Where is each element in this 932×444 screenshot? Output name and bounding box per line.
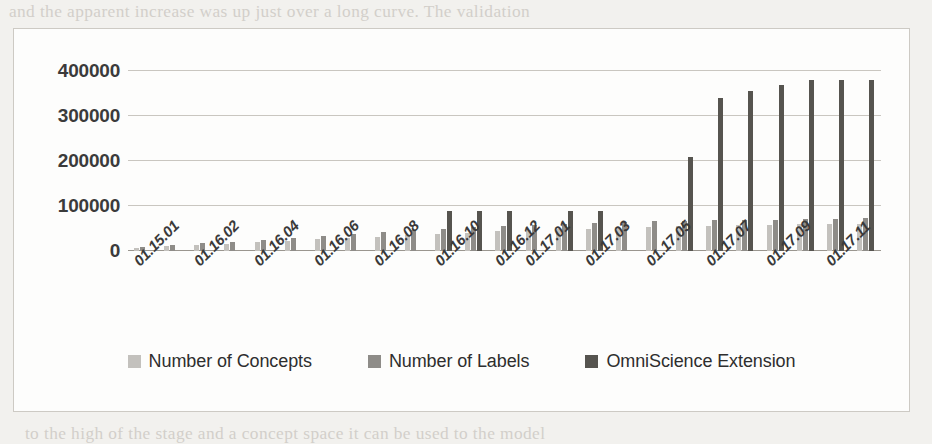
bar <box>839 80 844 251</box>
legend-label: OmniScience Extension <box>606 351 795 372</box>
y-axis-tick-label: 100000 <box>58 195 120 217</box>
legend-item[interactable]: OmniScience Extension <box>585 351 795 372</box>
legend-label: Number of Concepts <box>149 351 312 372</box>
legend-label: Number of Labels <box>389 351 529 372</box>
chart-figure-card: 0100000200000300000400000 01.15.0101.16.… <box>13 28 910 412</box>
legend-swatch-icon <box>585 355 598 368</box>
y-axis-tick-label: 0 <box>110 240 120 262</box>
bar-group <box>315 58 326 251</box>
bar <box>230 242 235 251</box>
bar <box>688 157 693 252</box>
bar-group <box>194 58 205 251</box>
y-axis: 0100000200000300000400000 <box>32 49 124 261</box>
chart-legend: Number of ConceptsNumber of LabelsOmniSc… <box>14 351 909 372</box>
bar-group <box>495 58 512 251</box>
x-axis: 01.15.0101.16.0201.16.0401.16.0601.16.08… <box>128 257 881 347</box>
bar-group <box>646 58 657 251</box>
legend-swatch-icon <box>368 355 381 368</box>
bar-group <box>767 58 784 251</box>
y-axis-tick-label: 300000 <box>58 105 120 127</box>
background-text-line: to the high of the stage and a concept s… <box>25 424 546 444</box>
bar-group <box>586 58 603 251</box>
plot-area <box>128 58 881 251</box>
bar-group <box>435 58 452 251</box>
y-axis-tick-label: 200000 <box>58 150 120 172</box>
bar-group <box>255 58 266 251</box>
bar-group <box>706 58 723 251</box>
bar <box>164 246 169 251</box>
legend-item[interactable]: Number of Concepts <box>128 351 312 372</box>
bar <box>718 98 723 251</box>
background-text-line: and the apparent increase was up just ov… <box>9 2 530 22</box>
y-axis-tick-label: 400000 <box>58 60 120 82</box>
legend-swatch-icon <box>128 355 141 368</box>
bar <box>779 85 784 252</box>
bar-group <box>134 58 145 251</box>
bar-group <box>375 58 386 251</box>
legend-item[interactable]: Number of Labels <box>368 351 529 372</box>
bar-group <box>827 58 844 251</box>
bar <box>170 245 175 251</box>
